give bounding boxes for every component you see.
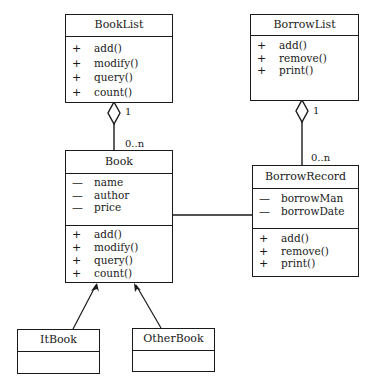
class-name: OtherBook	[133, 329, 214, 351]
multiplicity-book-many: 0..n	[125, 138, 144, 149]
class-itbook[interactable]: ItBook	[17, 329, 100, 374]
class-name: BookList	[66, 15, 172, 37]
operation-row: +add()	[72, 41, 172, 56]
class-name: ItBook	[18, 330, 99, 352]
class-booklist[interactable]: BookList +add() +modify() +query() +coun…	[65, 14, 173, 103]
attributes-section: —borrowMan —borrowDate	[253, 189, 358, 229]
aggregation-diamond-icon	[108, 102, 120, 124]
generalization-line-otherbook-book	[136, 285, 161, 328]
operations-section: +add() +modify() +query() +count()	[66, 226, 172, 281]
attribute-row: —price	[72, 202, 172, 215]
class-otherbook[interactable]: OtherBook	[132, 328, 215, 372]
operations-section: +add() +remove() +print()	[251, 36, 358, 78]
multiplicity-borrowlist-one: 1	[313, 105, 319, 116]
generalization-line-itbook-book	[73, 285, 96, 329]
class-borrowlist[interactable]: BorrowList +add() +remove() +print()	[250, 14, 359, 101]
arrowhead-icon	[91, 283, 99, 292]
aggregation-diamond-icon	[296, 100, 308, 122]
attribute-row: —author	[72, 190, 172, 203]
multiplicity-booklist-one: 1	[125, 106, 131, 117]
operations-section: +add() +remove() +print()	[253, 229, 358, 271]
operation-row: +modify()	[72, 56, 172, 71]
class-borrowrecord[interactable]: BorrowRecord —borrowMan —borrowDate +add…	[252, 165, 359, 277]
operation-row: +count()	[72, 85, 172, 100]
class-name: BorrowList	[251, 15, 358, 36]
class-name: Book	[66, 151, 172, 174]
attributes-section: —name —author —price	[66, 174, 172, 226]
class-name: BorrowRecord	[253, 166, 358, 189]
operation-row: +query()	[72, 70, 172, 85]
operation-row: +count()	[72, 268, 172, 281]
operation-row: +print()	[259, 258, 358, 271]
class-book[interactable]: Book —name —author —price +add() +modify…	[65, 150, 173, 283]
operation-row: +print()	[257, 65, 358, 78]
operations-section: +add() +modify() +query() +count()	[66, 37, 172, 99]
multiplicity-borrowrecord-many: 0..n	[311, 152, 330, 163]
attribute-row: —borrowDate	[259, 206, 358, 219]
